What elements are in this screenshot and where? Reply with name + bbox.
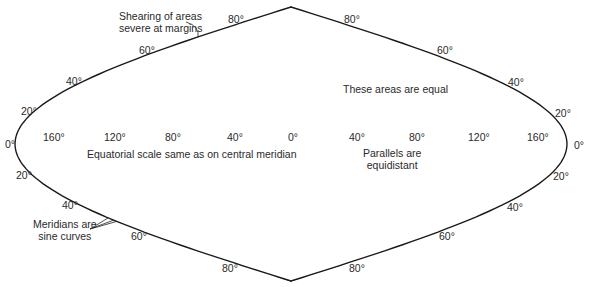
- meridians-note-line2: sine curves: [33, 230, 97, 242]
- label-lon-80e: 80°: [409, 132, 425, 143]
- label-lon-120e: 120°: [468, 132, 490, 143]
- label-n60-right: 60°: [437, 45, 453, 56]
- parallels-note-line1: Parallels are: [363, 147, 421, 159]
- label-s80-right: 80°: [349, 263, 365, 274]
- meridians-note: Meridians are sine curves: [33, 218, 97, 242]
- label-s40-left: 40°: [62, 200, 78, 211]
- label-lon-120w: 120°: [104, 132, 126, 143]
- label-s60-left: 60°: [131, 231, 147, 242]
- label-n20-left: 20°: [21, 106, 37, 117]
- equal-areas-note: These areas are equal: [343, 83, 448, 95]
- sinusoidal-projection-map: [0, 0, 589, 287]
- meridians-note-line1: Meridians are: [33, 218, 97, 230]
- label-s60-right: 60°: [439, 231, 455, 242]
- shearing-note: Shearing of areas severe at margins: [119, 10, 202, 34]
- label-n80-left: 80°: [228, 14, 244, 25]
- label-lon-80w: 80°: [165, 132, 181, 143]
- parallels-note: Parallels are equidistant: [363, 147, 421, 171]
- label-s20-right: 20°: [553, 171, 569, 182]
- label-lon-40e: 40°: [349, 132, 365, 143]
- label-lon-0: 0°: [288, 132, 298, 143]
- label-s80-left: 80°: [222, 263, 238, 274]
- label-n40-left: 40°: [66, 76, 82, 87]
- label-s20-left: 20°: [16, 170, 32, 181]
- label-n80-right: 80°: [344, 14, 360, 25]
- label-lon-40w: 40°: [227, 132, 243, 143]
- label-lon-160e: 160°: [527, 132, 549, 143]
- equatorial-scale-note: Equatorial scale same as on central meri…: [87, 148, 297, 160]
- shearing-note-line1: Shearing of areas: [119, 10, 202, 22]
- label-equator-right: 0°: [574, 140, 584, 151]
- label-n60-left: 60°: [139, 45, 155, 56]
- label-equator-left: 0°: [5, 139, 15, 150]
- label-s40-right: 40°: [507, 202, 523, 213]
- parallels-note-line2: equidistant: [363, 159, 421, 171]
- map-outline: [15, 7, 567, 281]
- shearing-note-line2: severe at margins: [119, 22, 202, 34]
- label-lon-160w: 160°: [43, 132, 65, 143]
- label-n20-right: 20°: [555, 108, 571, 119]
- label-n40-right: 40°: [508, 77, 524, 88]
